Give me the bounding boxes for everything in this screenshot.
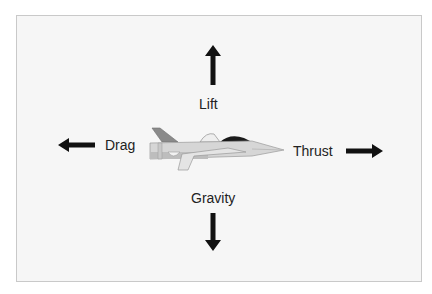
thrust-arrow-icon bbox=[346, 144, 383, 158]
gravity-label: Gravity bbox=[191, 190, 235, 206]
gravity-arrow-icon bbox=[205, 213, 221, 251]
drag-arrow-icon bbox=[58, 138, 95, 152]
lift-label: Lift bbox=[199, 96, 218, 112]
drag-label: Drag bbox=[105, 137, 135, 153]
fighter-jet-icon bbox=[148, 126, 288, 172]
thrust-label: Thrust bbox=[293, 143, 333, 159]
lift-arrow-icon bbox=[205, 45, 221, 85]
